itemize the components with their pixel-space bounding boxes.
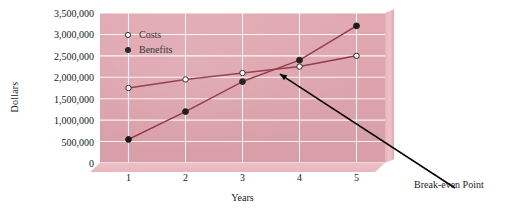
x-tick-label: 1 [114, 172, 144, 183]
y-axis-tick-labels: 0500,0001,000,0001,500,0002,000,0002,500… [26, 0, 94, 214]
y-tick-label: 2,000,000 [26, 72, 94, 83]
y-tick-label: 0 [26, 158, 94, 169]
legend-label-costs: Costs [139, 29, 161, 40]
y-tick-label: 3,000,000 [26, 29, 94, 40]
plot-area: Costs Benefits [100, 13, 385, 163]
break-even-point-label: Break-even Point [414, 179, 484, 190]
y-tick-label: 2,500,000 [26, 50, 94, 61]
y-tick-label: 1,000,000 [26, 115, 94, 126]
open-circle-icon [122, 31, 134, 39]
x-axis-tick-labels: 12345 [100, 172, 385, 188]
x-tick-label: 3 [228, 172, 258, 183]
y-axis-title: Dollars [9, 62, 20, 132]
legend-item-benefits: Benefits [122, 42, 172, 57]
x-tick-label: 4 [285, 172, 315, 183]
y-tick-label: 3,500,000 [26, 8, 94, 19]
panel-3d-bottom-face [90, 163, 385, 172]
legend-label-benefits: Benefits [139, 44, 172, 55]
x-axis-title: Years [100, 192, 385, 203]
legend-item-costs: Costs [122, 27, 172, 42]
panel-3d-right-face [385, 9, 394, 163]
x-tick-label: 2 [171, 172, 201, 183]
break-even-chart-figure: Dollars 0500,0001,000,0001,500,0002,000,… [0, 0, 509, 214]
panel-front-face: Costs Benefits [100, 13, 385, 163]
y-tick-label: 500,000 [26, 136, 94, 147]
legend: Costs Benefits [122, 27, 172, 57]
x-tick-label: 5 [342, 172, 372, 183]
filled-circle-icon [122, 46, 134, 54]
y-tick-label: 1,500,000 [26, 93, 94, 104]
